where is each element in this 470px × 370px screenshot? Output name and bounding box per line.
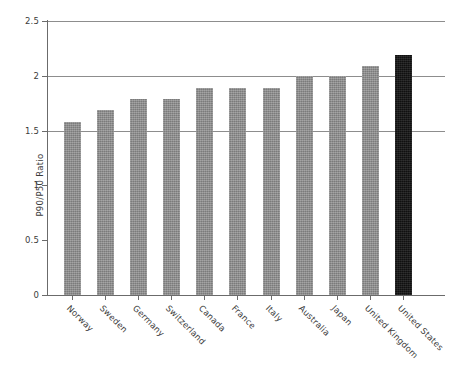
plot-area: 00.511.522.5 NorwaySwedenGermanySwitzerl… — [48, 21, 445, 295]
x-axis-tick-label: Italy — [263, 303, 284, 324]
bar-group[interactable]: France — [221, 21, 254, 295]
x-axis-tick-mark — [304, 295, 305, 300]
bar-group[interactable]: Germany — [122, 21, 155, 295]
x-axis-tick-label: Sweden — [98, 303, 130, 335]
y-axis-tick-label: 1 — [33, 180, 39, 190]
x-axis-tick-label: Germany — [131, 303, 167, 339]
bar-group[interactable]: United Kingdom — [354, 21, 387, 295]
x-axis-tick-mark — [138, 295, 139, 300]
x-axis-tick-label: Japan — [330, 303, 355, 328]
bars-layer: NorwaySwedenGermanySwitzerlandCanadaFran… — [48, 21, 445, 295]
y-axis-tick-label: 0 — [33, 290, 39, 300]
y-axis-tick-label: 2.5 — [25, 16, 39, 26]
x-axis-tick-label: France — [230, 303, 258, 331]
bar-group[interactable]: Canada — [188, 21, 221, 295]
bar-group[interactable]: Australia — [288, 21, 321, 295]
y-axis-tick-label: 1.5 — [25, 126, 39, 136]
bar[interactable] — [130, 99, 147, 295]
x-axis-tick-label: Australia — [297, 303, 332, 338]
x-axis-tick-mark — [337, 295, 338, 300]
bar[interactable] — [229, 88, 246, 295]
x-axis-tick-mark — [204, 295, 205, 300]
bar[interactable] — [329, 76, 346, 295]
bar-group[interactable]: Norway — [56, 21, 89, 295]
bar-chart: P90/P50 Ratio 00.511.522.5 NorwaySwedenG… — [0, 0, 470, 370]
x-axis-tick-mark — [271, 295, 272, 300]
x-axis-tick-mark — [105, 295, 106, 300]
x-axis-tick-mark — [72, 295, 73, 300]
bar[interactable] — [362, 66, 379, 295]
x-axis-tick-label: Norway — [65, 303, 96, 334]
bar-group[interactable]: United States — [387, 21, 420, 295]
bar[interactable] — [196, 88, 213, 295]
bar-group[interactable]: Sweden — [89, 21, 122, 295]
y-axis-tick-label: 0.5 — [25, 235, 39, 245]
bar[interactable] — [97, 110, 114, 295]
bar[interactable] — [163, 99, 180, 295]
bar[interactable] — [263, 88, 280, 295]
bar-group[interactable]: Japan — [321, 21, 354, 295]
x-axis-tick-mark — [370, 295, 371, 300]
bar-group[interactable]: Switzerland — [155, 21, 188, 295]
bar[interactable] — [395, 55, 412, 295]
x-axis-tick-mark — [237, 295, 238, 300]
x-axis-tick-mark — [171, 295, 172, 300]
x-axis-spine — [47, 295, 445, 296]
bar-group[interactable]: Italy — [255, 21, 288, 295]
y-axis-tick-label: 2 — [33, 71, 39, 81]
x-axis-tick-label: Canada — [197, 303, 228, 334]
bar[interactable] — [64, 122, 81, 295]
bar[interactable] — [296, 76, 313, 295]
y-axis-tick-mark — [42, 295, 48, 296]
x-axis-tick-mark — [403, 295, 404, 300]
